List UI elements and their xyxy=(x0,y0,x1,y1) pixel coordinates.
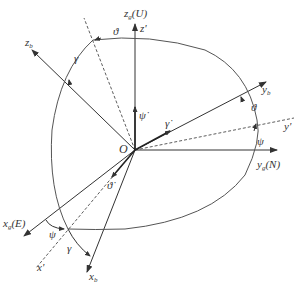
zb-label: zb xyxy=(25,37,33,50)
theta-right-label: ϑ xyxy=(251,102,256,113)
psi-bottom-label: ψ xyxy=(49,229,56,240)
bottom-arc xyxy=(68,229,125,230)
gamma-top-label: γ xyxy=(74,53,78,64)
theta-top-label: ϑ xyxy=(113,26,118,37)
origin-label: O xyxy=(119,143,128,155)
gamma-dot-vector xyxy=(135,131,170,150)
y-prime-axis xyxy=(135,118,294,150)
theta-right-arc-arrow xyxy=(241,97,243,102)
top-arc xyxy=(93,38,257,120)
gamma-bottom-label: γ xyxy=(67,243,71,254)
zb-axis xyxy=(32,50,135,150)
xb-label: xb xyxy=(89,271,97,284)
psi-dot-label: ψ̇ xyxy=(139,110,146,121)
gamma-top-arc-arrow xyxy=(69,80,70,85)
psi-right-label: ψ xyxy=(257,136,264,147)
theta-dot-label: ϑ̇ xyxy=(107,180,112,191)
diagram-canvas xyxy=(0,0,298,287)
x-prime-label: x' xyxy=(37,262,44,273)
psi-right-arc-arrow xyxy=(254,124,256,131)
zg-label: zg(U) xyxy=(124,8,147,21)
y-prime-label: y' xyxy=(284,121,291,132)
right-arc xyxy=(125,120,258,229)
euler-angle-diagram: O zg(U) z' yg(N) xg(E) zb yb xb y' x' ϑ … xyxy=(0,0,298,287)
z-prime-label: z' xyxy=(140,23,147,34)
gamma-dot-label: γ̇ xyxy=(165,118,169,129)
xg-label: xg(E) xyxy=(3,218,25,231)
yg-label: yg(N) xyxy=(257,159,280,172)
left-arc xyxy=(51,40,93,229)
yb-label: yb xyxy=(262,84,270,97)
